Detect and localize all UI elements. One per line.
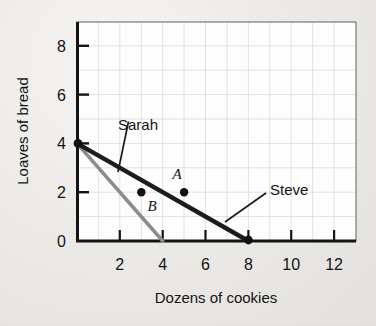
x-tick-label-12: 12 [325,256,343,273]
x-tick-label-2: 2 [115,256,124,273]
data-point-a[interactable] [180,188,188,196]
chart-figure: A B Sarah Steve 8 6 4 2 0 2 4 6 8 10 12 … [0,0,376,326]
data-point-label-b: B [147,198,156,214]
chart-svg: A B Sarah Steve 8 6 4 2 0 2 4 6 8 10 12 … [0,0,376,326]
annotation-label-steve: Steve [270,181,308,198]
endpoint-marker-origin [74,139,83,148]
y-tick-label-2: 2 [57,184,66,201]
x-tick-label-10: 10 [282,256,300,273]
x-tick-label-6: 6 [201,256,210,273]
y-tick-label-4: 4 [57,135,66,152]
x-tick-label-4: 4 [158,256,167,273]
data-point-b[interactable] [137,188,145,196]
x-axis-title: Dozens of cookies [155,289,278,306]
y-tick-label-8: 8 [57,38,66,55]
data-point-label-a: A [171,166,182,182]
endpoint-marker-steve-x-intercept [244,236,253,245]
annotation-label-sarah: Sarah [118,116,158,133]
y-tick-label-6: 6 [57,87,66,104]
x-tick-label-8: 8 [244,256,253,273]
y-tick-label-0: 0 [57,233,66,250]
y-axis-title: Loaves of bread [14,77,31,185]
